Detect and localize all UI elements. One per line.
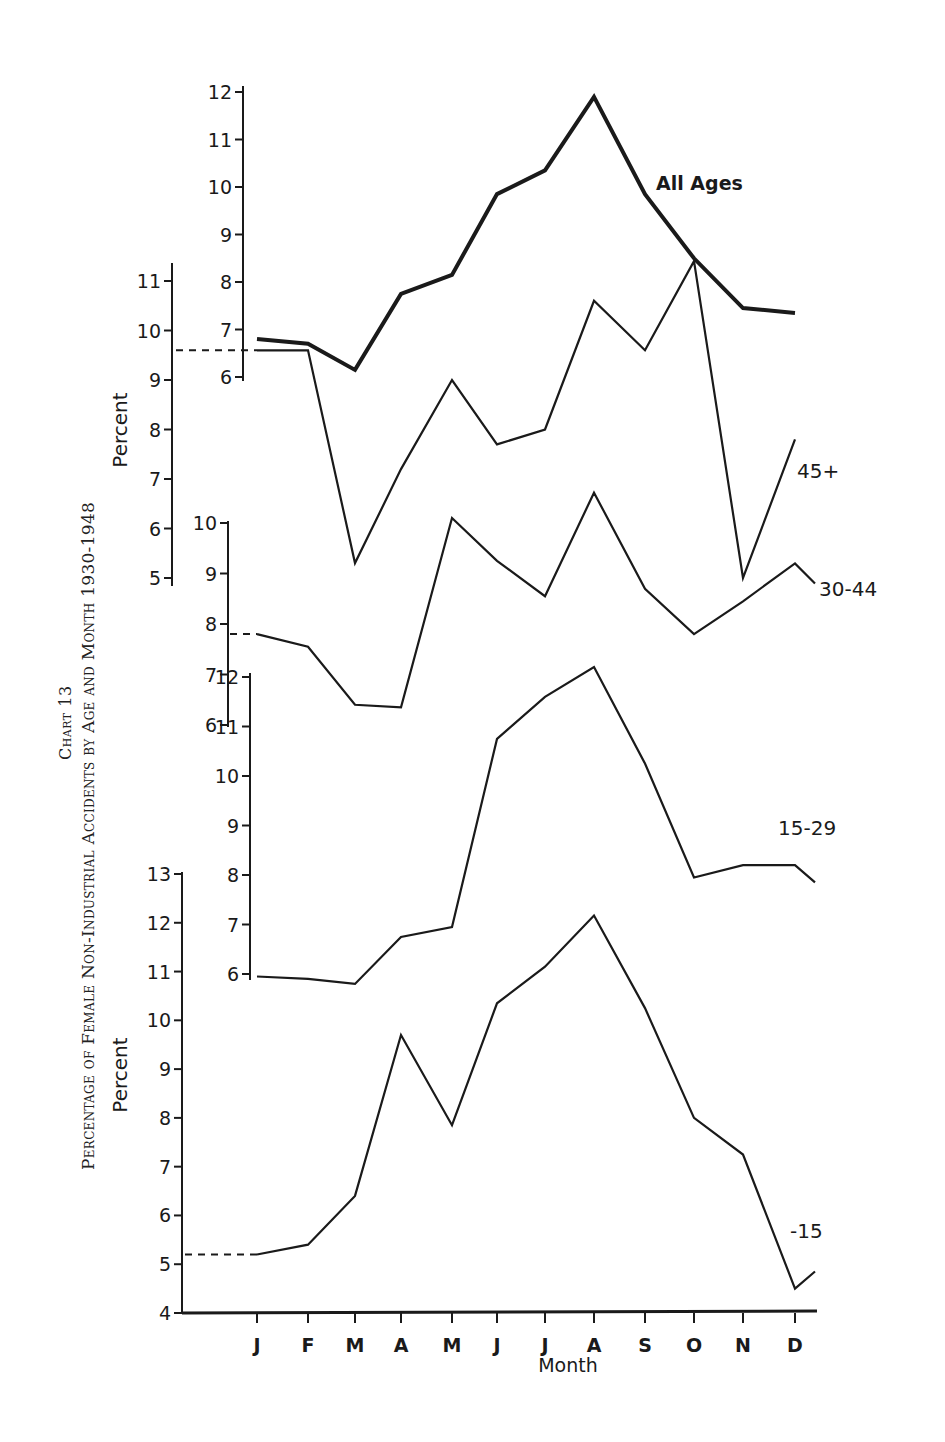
y-tick-label: 11 <box>137 270 161 292</box>
x-tick-label: J <box>491 1334 500 1356</box>
y-tick-label: 11 <box>147 961 171 983</box>
y-tick-label: 9 <box>149 369 161 391</box>
series-line-1529 <box>257 667 815 984</box>
series-line-15 <box>257 916 815 1289</box>
y-axis-title: Percent <box>108 392 132 467</box>
y-tick-label: 9 <box>227 815 239 837</box>
y-tick-label: 8 <box>149 419 161 441</box>
y-tick-label: 13 <box>147 863 171 885</box>
y-tick-label: 12 <box>147 912 171 934</box>
y-tick-label: 10 <box>137 320 161 342</box>
series-label-45: 45+ <box>797 459 839 483</box>
y-tick-label: 6 <box>159 1204 171 1226</box>
y-tick-label: 7 <box>227 914 239 936</box>
x-tick-label: O <box>686 1334 702 1356</box>
y-tick-label: 10 <box>208 176 232 198</box>
y-tick-label: 8 <box>159 1107 171 1129</box>
y-tick-label: 6 <box>220 366 232 388</box>
y-tick-label: 9 <box>220 224 232 246</box>
y-tick-label: 11 <box>208 129 232 151</box>
y-tick-label: 5 <box>149 567 161 589</box>
x-tick-label: M <box>443 1334 462 1356</box>
y-tick-label: 8 <box>205 613 217 635</box>
series-label-3044: 30-44 <box>819 577 877 601</box>
y-tick-label: 10 <box>215 765 239 787</box>
series-line-45 <box>257 261 795 578</box>
x-axis-title: Month <box>538 1354 598 1376</box>
y-tick-label: 6 <box>149 518 161 540</box>
series-line-allages <box>257 97 795 370</box>
y-tick-label: 9 <box>159 1058 171 1080</box>
x-axis <box>182 1311 817 1313</box>
y-tick-label: 11 <box>215 716 239 738</box>
x-tick-label: F <box>302 1334 315 1356</box>
x-tick-label: A <box>394 1334 409 1356</box>
line-chart: 6789101112All Ages56789101145+67891030-4… <box>0 0 945 1442</box>
series-line-3044 <box>257 493 815 708</box>
y-tick-label: 5 <box>159 1253 171 1275</box>
y-tick-label: 10 <box>147 1009 171 1031</box>
y-tick-label: 12 <box>215 666 239 688</box>
x-tick-label: M <box>346 1334 365 1356</box>
y-tick-label: 7 <box>159 1156 171 1178</box>
y-tick-label: 12 <box>208 81 232 103</box>
series-label-1529: 15-29 <box>778 816 836 840</box>
series-label-allages: All Ages <box>656 172 743 194</box>
y-tick-label: 8 <box>227 864 239 886</box>
y-tick-label: 4 <box>159 1302 171 1324</box>
y-tick-label: 8 <box>220 271 232 293</box>
series-label-15: -15 <box>790 1219 823 1243</box>
y-tick-label: 7 <box>149 468 161 490</box>
x-tick-label: D <box>787 1334 803 1356</box>
y-axis-title: Percent <box>108 1037 132 1112</box>
x-tick-label: A <box>587 1334 602 1356</box>
y-tick-label: 7 <box>220 319 232 341</box>
y-tick-label: 6 <box>227 963 239 985</box>
y-tick-label: 9 <box>205 563 217 585</box>
x-tick-label: J <box>251 1334 260 1356</box>
x-tick-label: S <box>638 1334 652 1356</box>
x-tick-label: N <box>735 1334 751 1356</box>
x-tick-label: J <box>539 1334 548 1356</box>
y-tick-label: 10 <box>193 512 217 534</box>
